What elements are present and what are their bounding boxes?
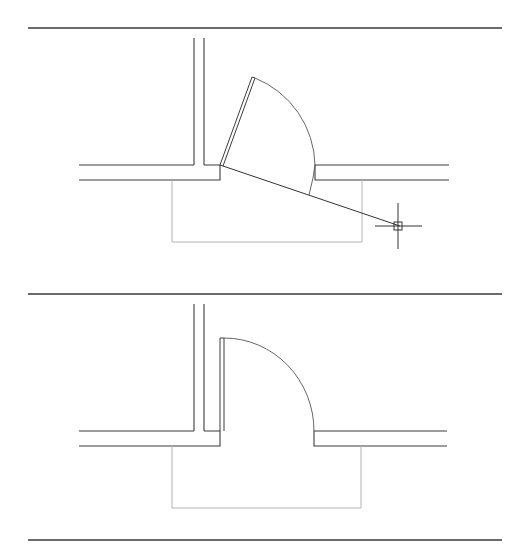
cad-drawing [0, 0, 529, 545]
partition-wall [194, 38, 204, 165]
crosshair-cursor-icon [375, 203, 422, 249]
door-leaf[interactable] [220, 338, 224, 431]
floor-outline [172, 180, 362, 242]
right-wall [315, 165, 449, 180]
panel-after [28, 294, 502, 540]
partition-wall [194, 304, 204, 431]
left-wall [79, 431, 220, 446]
rotation-rubber-band [220, 165, 400, 226]
door-swing-arc [255, 78, 315, 195]
panel-before [28, 28, 502, 249]
floor-outline [172, 446, 361, 508]
door-leaf[interactable] [220, 77, 255, 166]
right-wall [314, 431, 447, 446]
door-swing-arc [224, 338, 314, 431]
left-wall [79, 165, 220, 180]
